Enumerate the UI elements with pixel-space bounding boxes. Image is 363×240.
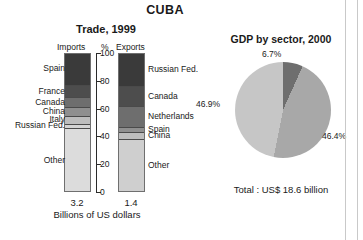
bar-segment-label: France [39,87,65,96]
gdp-pie-chart [235,62,331,158]
pie-label-slice-2: 46.4% [322,131,346,141]
bar-segment-label: Other [148,161,169,170]
bar-segment-label: Canada [148,92,178,101]
bar-segment [65,54,90,86]
bar-segment [65,98,90,108]
page-title: CUBA [0,3,330,17]
percent-axis-line [96,53,97,192]
pie-label-slice-3: 46.9% [196,99,220,109]
axis-tick-label: 20 [100,160,109,168]
pie-label-slice-1: 6.7% [262,49,281,59]
bar-segment [119,140,144,192]
gdp-chart-title: GDP by sector, 2000 [208,33,354,45]
exports-column-header: Exports [116,42,145,52]
bar-segment-label: China [148,131,170,140]
bar-segment-label: Other [44,156,65,165]
bar-segment [65,117,90,125]
trade-chart-title: Trade, 1999 [41,23,171,35]
trade-axis-caption: Billions of US dollars [22,209,172,220]
page-edge-rule-right [357,0,358,240]
gdp-total-annotation: Total : US$ 18.6 billion [208,184,354,195]
bar-segment-label: Russian Fed. [148,65,198,74]
bar-segment-label: Russian Fed. [15,121,65,130]
bar-segment [119,54,144,87]
bar-segment [65,86,90,99]
exports-stacked-bar [118,53,145,192]
bar-segment-label: Spain [43,64,65,73]
imports-total-value: 3.2 [57,197,97,208]
axis-tick-label: 100 [100,49,114,57]
page-edge-rule-left [345,0,346,240]
figure-canvas: CUBA Trade, 1999 GDP by sector, 2000 Imp… [0,0,363,240]
bar-segment [119,107,144,128]
axis-tick-label: 0 [100,188,105,196]
bar-segment [119,133,144,140]
bar-segment [65,108,90,116]
imports-stacked-bar [64,53,91,192]
imports-column-header: Imports [57,42,85,52]
axis-tick-label: 60 [100,105,109,113]
axis-tick-label: 40 [100,132,109,140]
bar-segment-label: Netherlands [148,112,194,121]
axis-tick-label: 80 [100,77,109,85]
bar-segment [65,129,90,192]
exports-total-value: 1.4 [111,197,151,208]
bar-segment [119,87,144,106]
